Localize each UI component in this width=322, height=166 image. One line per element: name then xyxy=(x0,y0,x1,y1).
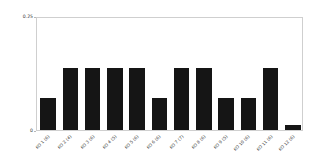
bar xyxy=(174,68,190,130)
bar xyxy=(63,68,79,130)
y-axis-tick-label: 0.25 xyxy=(23,14,33,19)
plot-area xyxy=(36,17,303,131)
y-axis-title: 3-compactness xyxy=(0,0,3,40)
bar xyxy=(285,125,301,130)
y-axis-tick-label: 0 xyxy=(30,128,33,133)
bar xyxy=(241,98,257,130)
bar xyxy=(196,68,212,130)
bar xyxy=(263,68,279,130)
bar xyxy=(40,98,56,130)
bar xyxy=(152,98,168,130)
bar xyxy=(129,68,145,130)
y-axis-tick-mark xyxy=(34,131,36,132)
bar xyxy=(85,68,101,130)
bar-chart-figure: 3-compactness 0.250 KO 1 (6)KO 2 (4)KO 3… xyxy=(0,0,322,166)
bar xyxy=(218,98,234,130)
bar xyxy=(107,68,123,130)
